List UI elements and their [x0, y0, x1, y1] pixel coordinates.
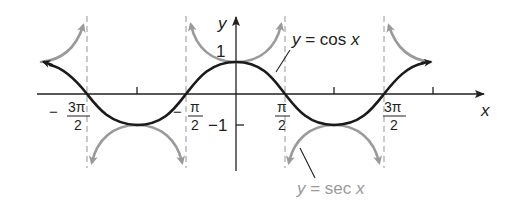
sec-branch-pi-right [334, 125, 379, 162]
sec-curve-label: y = sec x [296, 179, 365, 198]
x-tick-denominator: 2 [278, 117, 286, 133]
cos-curve-label: y = cos x [291, 30, 360, 49]
sec-label-x: x [355, 179, 365, 198]
x-tick-numerator: 3π [68, 99, 86, 115]
x-tick-label-pi-2: π 2 [275, 99, 290, 133]
x-axis-label: x [480, 101, 490, 120]
x-tick-sign: − [173, 103, 182, 120]
x-tick-numerator: π [190, 99, 200, 115]
x-tick-denominator: 2 [390, 117, 398, 133]
cos-sec-graph: y x 1 −1 − 3π 2 − π 2 π 2 3π 2 y = cos x… [0, 0, 512, 201]
cos-label-leader [276, 50, 290, 72]
x-tick-label-3pi-2: 3π 2 [383, 99, 406, 133]
y-axis-label: y [217, 14, 228, 33]
x-tick-numerator: π [277, 99, 287, 115]
x-tick-numerator: 3π [384, 99, 402, 115]
sec-branch-pi-left [289, 125, 334, 162]
sec-branch-center-right [236, 25, 281, 62]
x-tick-label-neg-3pi-2: − 3π 2 [49, 99, 90, 133]
x-tick-denominator: 2 [191, 117, 199, 133]
sec-branch-center-left [191, 25, 236, 62]
cos-right-arrow [422, 62, 430, 63]
sec-branch-right [389, 26, 431, 62]
sec-label-rest: = sec [306, 179, 357, 198]
sec-branch-neg-pi-right [137, 125, 182, 162]
x-tick-denominator: 2 [74, 117, 82, 133]
cos-label-rest: = cos [301, 30, 352, 49]
sec-label-leader [300, 148, 315, 178]
x-tick-label-neg-pi-2: − π 2 [173, 99, 203, 133]
cos-left-arrow [44, 62, 52, 65]
cos-label-x: x [350, 30, 360, 49]
x-tick-sign: − [49, 103, 58, 120]
sec-branch-neg-pi-left [92, 125, 137, 162]
y-tick-label-one: 1 [216, 42, 225, 61]
y-tick-label-minus-one: −1 [208, 116, 227, 135]
axes [37, 17, 484, 171]
sec-branch-left [41, 26, 83, 62]
